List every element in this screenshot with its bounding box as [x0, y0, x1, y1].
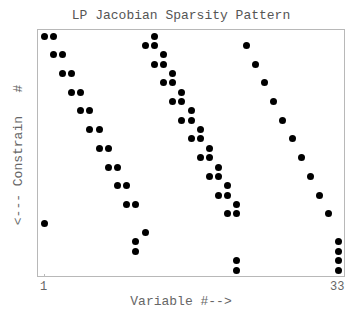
data-point — [206, 145, 213, 152]
data-point — [105, 164, 112, 171]
data-point — [215, 164, 222, 171]
data-point — [215, 192, 222, 199]
data-point — [160, 61, 167, 68]
data-point — [335, 267, 342, 274]
data-point — [59, 70, 66, 77]
data-point — [316, 192, 323, 199]
data-point — [142, 229, 149, 236]
x-tick-mark-first — [44, 274, 45, 277]
data-point — [335, 257, 342, 264]
data-point — [298, 154, 305, 161]
data-point — [224, 192, 231, 199]
data-point — [307, 173, 314, 180]
data-point — [188, 135, 195, 142]
x-tick-last: 33 — [330, 280, 344, 294]
data-point — [197, 126, 204, 133]
chart-title: LP Jacobian Sparsity Pattern — [0, 8, 362, 23]
data-point — [243, 42, 250, 49]
data-point — [151, 33, 158, 40]
x-tick-first: 1 — [40, 280, 47, 294]
data-point — [197, 154, 204, 161]
data-point — [50, 33, 57, 40]
data-point — [77, 89, 84, 96]
data-point — [252, 61, 259, 68]
x-axis-label: Variable #--> — [0, 294, 362, 309]
data-point — [68, 89, 75, 96]
data-point — [188, 117, 195, 124]
data-point — [41, 33, 48, 40]
data-point — [151, 61, 158, 68]
data-point — [178, 89, 185, 96]
data-point — [41, 220, 48, 227]
data-point — [142, 42, 149, 49]
data-point — [96, 145, 103, 152]
data-point — [114, 164, 121, 171]
data-point — [68, 70, 75, 77]
data-point — [169, 70, 176, 77]
plot-frame — [37, 29, 345, 277]
data-point — [96, 126, 103, 133]
data-point — [335, 248, 342, 255]
data-point — [233, 267, 240, 274]
data-point — [188, 107, 195, 114]
y-axis-label: <--- Constrain # — [11, 85, 26, 225]
data-point — [335, 238, 342, 245]
data-point — [151, 42, 158, 49]
data-point — [206, 173, 213, 180]
data-point — [215, 173, 222, 180]
data-point — [105, 145, 112, 152]
data-point — [50, 51, 57, 58]
data-point — [206, 154, 213, 161]
